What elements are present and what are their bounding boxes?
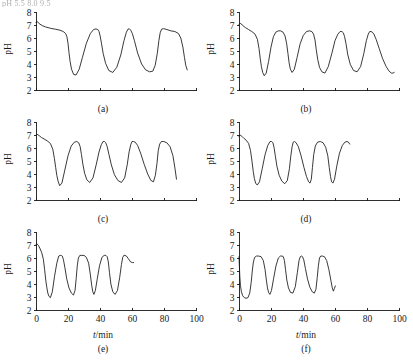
axis-spines xyxy=(240,233,400,311)
y-tick-label: 5 xyxy=(27,267,32,277)
y-tick-label: 4 xyxy=(27,60,32,70)
plot-area: 2345678 xyxy=(203,6,409,118)
y-axis-title: pH xyxy=(3,153,13,165)
y-tick-label: 4 xyxy=(230,170,235,180)
x-tick-label: 100 xyxy=(189,314,204,324)
x-tick-label: 60 xyxy=(331,314,341,324)
x-axis-title-unit: /min xyxy=(96,330,113,340)
panel-caption: (a) xyxy=(0,104,206,114)
y-axis-title: pH xyxy=(3,43,13,55)
plot-area: 2345678 xyxy=(0,6,206,118)
y-tick-label: 4 xyxy=(230,280,235,290)
panel-caption: (f) xyxy=(203,344,409,354)
y-tick-label: 4 xyxy=(27,170,32,180)
y-tick-label: 6 xyxy=(27,34,32,44)
axis-spines xyxy=(37,233,197,311)
x-axis-title: t/min xyxy=(203,330,409,340)
data-curve xyxy=(36,244,134,298)
y-tick-label: 7 xyxy=(230,241,235,251)
data-curve xyxy=(239,256,335,298)
x-tick-label: 20 xyxy=(267,314,277,324)
y-tick-label: 8 xyxy=(230,8,235,18)
figure-panel-grid: 2345678pH(a)2345678pH(b)2345678pH(c)2345… xyxy=(0,6,413,361)
x-tick-label: 0 xyxy=(34,314,39,324)
chart-panel-d: 2345678pH(d) xyxy=(203,116,409,228)
data-curve xyxy=(239,135,350,185)
plot-area: 2345678 xyxy=(0,116,206,228)
chart-panel-e: 2345678020406080100pHt/min(e) xyxy=(0,226,206,359)
y-tick-label: 8 xyxy=(27,8,32,18)
panel-caption: (d) xyxy=(203,214,409,224)
data-curve xyxy=(239,23,394,76)
x-tick-label: 40 xyxy=(96,314,106,324)
y-axis-title: pH xyxy=(206,263,216,275)
y-tick-label: 5 xyxy=(230,267,235,277)
x-tick-label: 40 xyxy=(299,314,309,324)
x-tick-label: 100 xyxy=(392,314,407,324)
x-axis-title-unit: /min xyxy=(299,330,316,340)
x-tick-label: 0 xyxy=(237,314,242,324)
chart-panel-c: 2345678pH(c) xyxy=(0,116,206,228)
panel-caption: (e) xyxy=(0,344,206,354)
chart-panel-b: 2345678pH(b) xyxy=(203,6,409,118)
y-tick-label: 7 xyxy=(27,241,32,251)
y-tick-label: 6 xyxy=(230,34,235,44)
y-tick-label: 6 xyxy=(230,144,235,154)
y-tick-label: 4 xyxy=(230,60,235,70)
y-tick-label: 8 xyxy=(230,118,235,128)
y-tick-label: 2 xyxy=(27,306,32,316)
data-curve xyxy=(36,22,187,75)
y-tick-label: 7 xyxy=(230,131,235,141)
y-tick-label: 2 xyxy=(27,196,32,206)
y-tick-label: 7 xyxy=(230,21,235,31)
axis-spines xyxy=(240,13,400,91)
x-tick-label: 80 xyxy=(160,314,170,324)
x-tick-label: 20 xyxy=(64,314,74,324)
y-tick-label: 2 xyxy=(27,86,32,96)
y-tick-label: 3 xyxy=(230,183,235,193)
y-tick-label: 3 xyxy=(230,293,235,303)
chart-panel-f: 2345678020406080100pHt/min(f) xyxy=(203,226,409,359)
y-tick-label: 6 xyxy=(27,254,32,264)
axis-spines xyxy=(37,123,197,201)
y-axis-title: pH xyxy=(206,153,216,165)
y-tick-label: 5 xyxy=(230,47,235,57)
y-tick-label: 4 xyxy=(27,280,32,290)
y-tick-label: 8 xyxy=(230,228,235,238)
y-tick-label: 8 xyxy=(27,118,32,128)
y-tick-label: 3 xyxy=(27,73,32,83)
y-tick-label: 7 xyxy=(27,131,32,141)
chart-panel-a: 2345678pH(a) xyxy=(0,6,206,118)
x-tick-label: 60 xyxy=(128,314,138,324)
y-tick-label: 6 xyxy=(230,254,235,264)
plot-area: 2345678 xyxy=(203,116,409,228)
y-tick-label: 2 xyxy=(230,86,235,96)
y-tick-label: 8 xyxy=(27,228,32,238)
y-tick-label: 3 xyxy=(230,73,235,83)
x-axis-title: t/min xyxy=(0,330,206,340)
y-tick-label: 3 xyxy=(27,183,32,193)
y-tick-label: 7 xyxy=(27,21,32,31)
y-tick-label: 5 xyxy=(230,157,235,167)
y-axis-title: pH xyxy=(206,43,216,55)
y-tick-label: 5 xyxy=(27,157,32,167)
data-curve xyxy=(36,134,176,185)
y-tick-label: 5 xyxy=(27,47,32,57)
y-tick-label: 2 xyxy=(230,306,235,316)
y-axis-title: pH xyxy=(3,263,13,275)
y-tick-label: 2 xyxy=(230,196,235,206)
panel-caption: (b) xyxy=(203,104,409,114)
axis-spines xyxy=(37,13,197,91)
x-tick-label: 80 xyxy=(363,314,373,324)
y-tick-label: 6 xyxy=(27,144,32,154)
panel-caption: (c) xyxy=(0,214,206,224)
y-tick-label: 3 xyxy=(27,293,32,303)
